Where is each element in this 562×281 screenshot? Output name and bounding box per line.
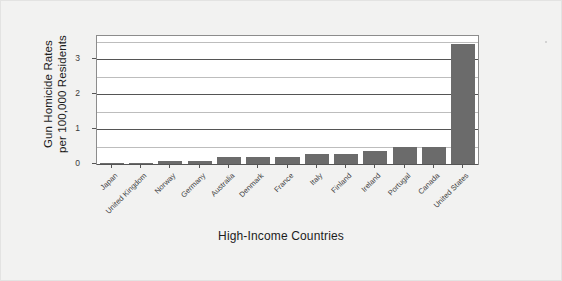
x-axis-tick-label: Germany [178,171,206,199]
x-axis-tick-mark [228,164,229,168]
y-axis-tick-label: 1 [64,123,80,133]
x-axis-tick-mark [374,164,375,168]
x-axis-tick-label: France [272,171,295,194]
y-axis-tick-mark [92,58,96,59]
x-axis-tick-mark [199,164,200,168]
y-axis-tick-mark [92,128,96,129]
y-axis-tick-label: 2 [64,88,80,98]
x-axis-tick-mark [257,164,258,168]
x-axis-tick-label: Norway [153,171,178,196]
gridline-major [97,164,478,165]
x-axis-tick-mark [316,164,317,168]
bar [393,147,417,164]
x-axis-tick-mark [287,164,288,168]
y-axis-tick-label: 0 [64,158,80,168]
x-axis-tick-mark [433,164,434,168]
x-axis-tick-label: Ireland [360,171,383,194]
bar [451,44,475,164]
x-axis-tick-label: Japan [98,171,119,192]
y-axis-tick-mark [92,93,96,94]
bar [305,154,329,164]
bar [422,147,446,164]
bar [217,157,241,164]
x-axis-title: High-Income Countries [1,229,561,243]
x-axis-tick-mark [140,164,141,168]
bar [100,163,124,164]
bar [363,151,387,164]
corner-marker-icon [545,41,547,43]
x-axis-tick-mark [462,164,463,168]
bar [275,157,299,164]
y-axis-tick-mark [92,163,96,164]
y-axis-tick-label: 3 [64,53,80,63]
x-axis-tick-label: Italy [308,171,324,187]
bar [158,161,182,164]
x-axis-tick-mark [345,164,346,168]
figure-canvas: Gun Homicide Rates per 100,000 Residents… [0,0,562,281]
y-axis-title-line-1: Gun Homicide Rates [42,40,54,148]
plot-area [96,35,479,165]
bar [129,163,153,164]
x-axis-tick-label: Australia [209,171,236,198]
bar [188,161,212,164]
bar [334,154,358,164]
x-axis-tick-label: Canada [416,171,441,196]
x-axis-tick-label: Finland [329,171,353,195]
bar-series [97,36,478,164]
x-axis-tick-mark [111,164,112,168]
x-axis-tick-label: Denmark [237,171,265,199]
x-axis-tick-mark [169,164,170,168]
x-axis-tick-label: Portugal [386,171,412,197]
bar [246,157,270,164]
x-axis-tick-mark [404,164,405,168]
